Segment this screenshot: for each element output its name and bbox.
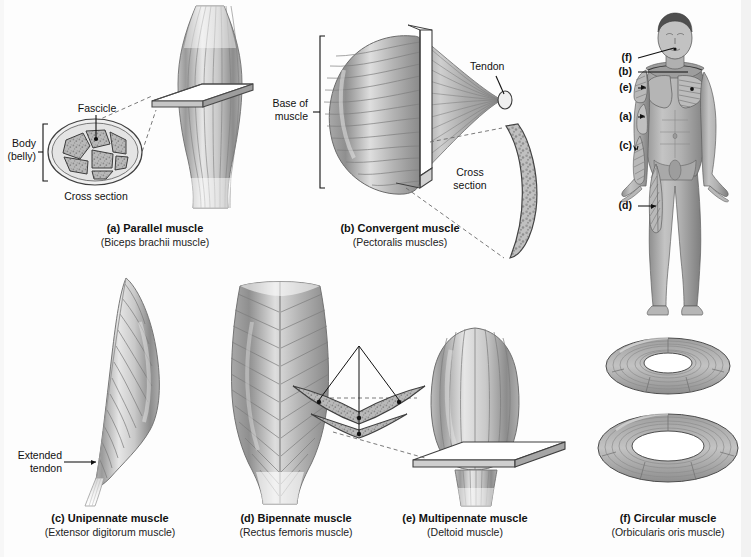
pectoralis-callout-dot	[690, 87, 694, 91]
callout-label-b: (b)	[568, 65, 632, 78]
callout-label-a: (a)	[568, 110, 632, 123]
callout-label-e: (e)	[568, 81, 632, 94]
base-of-muscle-bracket	[313, 36, 325, 188]
caption-e-subtitle: (Deltoid muscle)	[355, 526, 575, 539]
caption-panel-c: (c) Unipennate muscle (Extensor digitoru…	[10, 512, 210, 539]
cross-section-crescent-b	[506, 124, 537, 258]
navel	[673, 133, 677, 138]
caption-c-title: (c) Unipennate muscle	[10, 512, 210, 526]
label-extended-line1: Extended	[0, 449, 62, 462]
unipennate-muscle-illustration	[40, 272, 220, 507]
callout-label-d: (d)	[568, 199, 632, 212]
label-body-line1: Body	[0, 137, 36, 150]
label-base-line1: Base of	[238, 97, 308, 110]
caption-panel-b: (b) Convergent muscle (Pectoralis muscle…	[300, 222, 500, 249]
multipennate-distal	[455, 470, 497, 506]
multipennate-muscle-illustration	[325, 320, 605, 510]
cross-section-oval-a	[48, 115, 142, 185]
label-cross-b-line1: Cross	[440, 166, 500, 179]
cross-section-plane-e	[413, 442, 565, 467]
label-tendon-b: Tendon	[470, 60, 504, 73]
muscle-fascicle-figure: Fascicle Body (belly) Cross section (a) …	[0, 0, 751, 557]
foot-left	[647, 306, 668, 315]
caption-a-title: (a) Parallel muscle	[55, 222, 255, 236]
caption-a-subtitle: (Biceps brachii muscle)	[55, 236, 255, 249]
caption-panel-e: (e) Multipennate muscle (Deltoid muscle)	[355, 512, 575, 539]
groin	[669, 160, 681, 180]
ring-contracted	[606, 338, 730, 394]
extended-tendon	[85, 478, 104, 506]
caption-panel-a: (a) Parallel muscle (Biceps brachii musc…	[55, 222, 255, 249]
circular-muscle-illustration	[590, 330, 750, 510]
panel-multipennate-muscle: Tendons Cross section	[325, 320, 605, 510]
panel-unipennate-muscle: Extended tendon	[40, 272, 220, 507]
panel-circular-muscle: Contracted Relaxed	[590, 330, 750, 510]
convergent-muscle-base	[324, 36, 420, 194]
label-body-line2: (belly)	[0, 150, 36, 163]
body-belly-bracket	[38, 124, 48, 181]
tendon-tip-b	[498, 91, 512, 109]
human-body-figure: (f) (b) (e) (a) (c) (d)	[600, 10, 751, 320]
callout-label-c: (c)	[568, 139, 632, 152]
label-extended-line2: tendon	[0, 462, 62, 475]
ring-relaxed	[598, 414, 738, 482]
label-fascicle: Fascicle	[64, 102, 130, 115]
label-base-line2: muscle	[238, 110, 308, 123]
foot-right	[682, 306, 703, 315]
arm-right	[700, 72, 728, 197]
deltoid-muscle	[634, 70, 647, 103]
caption-f-subtitle: (Orbicularis oris muscle)	[578, 526, 751, 539]
caption-f-title: (f) Circular muscle	[578, 512, 751, 526]
caption-panel-f: (f) Circular muscle (Orbicularis oris mu…	[578, 512, 751, 539]
caption-c-subtitle: (Extensor digitorum muscle)	[10, 526, 210, 539]
label-cross-b-line2: section	[440, 179, 500, 192]
callout-label-f: (f)	[568, 51, 632, 64]
caption-e-title: (e) Multipennate muscle	[355, 512, 575, 526]
tendon-leader-b	[496, 76, 504, 94]
label-cross-section-a: Cross section	[40, 190, 152, 203]
caption-b-title: (b) Convergent muscle	[300, 222, 500, 236]
caption-b-subtitle: (Pectoralis muscles)	[300, 236, 500, 249]
